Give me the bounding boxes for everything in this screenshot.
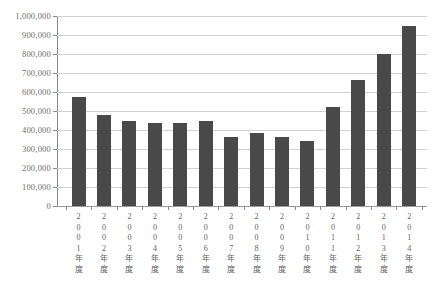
bar — [122, 121, 136, 206]
x-axis-label-char: 0 — [98, 233, 110, 244]
x-axis-tick-label: 2003年度 — [123, 212, 135, 275]
x-axis-label-char: 度 — [149, 265, 161, 276]
x-axis-label-char: 8 — [251, 244, 263, 255]
y-axis-tick-label: 900,000 — [22, 30, 51, 40]
x-axis-tick-group — [57, 206, 427, 210]
x-axis-tick-label: 2010年度 — [301, 212, 313, 275]
y-axis-tick-label: 200,000 — [22, 163, 51, 173]
y-axis-tick-label: 600,000 — [22, 87, 51, 97]
x-axis-label-char: 2 — [73, 212, 85, 223]
bar-chart: 1,000,000900,000800,000700,000600,000500… — [0, 0, 432, 281]
x-axis-label-char: 年 — [276, 254, 288, 265]
x-axis-label-char: 0 — [403, 223, 415, 234]
x-axis-label-char: 度 — [352, 265, 364, 276]
x-axis-label-char: 年 — [301, 254, 313, 265]
x-axis-label-char: 0 — [327, 223, 339, 234]
x-axis-label-char: 0 — [301, 223, 313, 234]
x-axis-label-char: 2 — [352, 244, 364, 255]
x-axis-label-char: 0 — [251, 233, 263, 244]
x-axis-label-char: 年 — [174, 254, 186, 265]
x-axis-label-char: 1 — [327, 244, 339, 255]
y-axis-tick-label: 0 — [47, 201, 51, 211]
x-axis-label-char: 2 — [98, 212, 110, 223]
x-axis-label-char: 0 — [301, 244, 313, 255]
x-axis-label-char: 年 — [149, 254, 161, 265]
x-axis-label-char: 1 — [352, 233, 364, 244]
x-axis-label-char: 0 — [98, 223, 110, 234]
x-axis-tick-mark — [91, 206, 92, 210]
x-axis-tick-mark — [371, 206, 372, 210]
bar — [351, 80, 365, 206]
bar — [250, 133, 264, 206]
y-axis-tick-label: 500,000 — [22, 106, 51, 116]
x-axis-label-char: 0 — [149, 223, 161, 234]
y-axis-tick-label: 300,000 — [22, 144, 51, 154]
bar — [148, 123, 162, 206]
x-axis-label-char: 0 — [123, 233, 135, 244]
x-axis-label-char: 年 — [378, 254, 390, 265]
x-axis-label-char: 年 — [98, 254, 110, 265]
x-axis-tick-mark — [346, 206, 347, 210]
x-axis-label-char: 9 — [276, 244, 288, 255]
x-axis-label-char: 度 — [98, 265, 110, 276]
x-axis-label-char: 0 — [200, 223, 212, 234]
x-axis-label-char: 0 — [378, 223, 390, 234]
x-axis-label-char: 度 — [123, 265, 135, 276]
x-axis-label-char: 1 — [403, 233, 415, 244]
x-axis-label-char: 度 — [225, 265, 237, 276]
x-axis-label-char: 度 — [251, 265, 263, 276]
x-axis-label-char: 0 — [251, 223, 263, 234]
x-axis-label-char: 1 — [73, 244, 85, 255]
x-axis-label-char: 2 — [301, 212, 313, 223]
x-axis-label-char: 0 — [352, 223, 364, 234]
x-axis-label-char: 1 — [301, 233, 313, 244]
x-axis-label-char: 度 — [174, 265, 186, 276]
y-axis-tick-label: 100,000 — [22, 182, 51, 192]
x-axis-tick-label: 2001年度 — [73, 212, 85, 275]
x-axis-tick-mark — [117, 206, 118, 210]
x-axis-label-char: 度 — [403, 265, 415, 276]
x-axis-label-char: 度 — [200, 265, 212, 276]
x-axis-label-char: 0 — [174, 233, 186, 244]
x-axis-tick-mark — [66, 206, 67, 210]
y-axis-tick-label: 700,000 — [22, 68, 51, 78]
x-axis-label-char: 0 — [200, 233, 212, 244]
x-axis-label-char: 2 — [352, 212, 364, 223]
x-axis-label-char: 1 — [378, 233, 390, 244]
x-axis-tick-label: 2012年度 — [352, 212, 364, 275]
x-axis-label-char: 2 — [327, 212, 339, 223]
x-axis-tick-label: 2004年度 — [149, 212, 161, 275]
y-axis-tick-label: 1,000,000 — [15, 11, 51, 21]
x-axis-tick-label: 2006年度 — [200, 212, 212, 275]
x-axis-label-char: 0 — [225, 223, 237, 234]
x-axis-label-char: 年 — [200, 254, 212, 265]
x-axis-label-char: 年 — [123, 254, 135, 265]
x-axis-label-char: 0 — [73, 223, 85, 234]
x-axis-tick-mark — [142, 206, 143, 210]
bar — [402, 26, 416, 206]
x-axis-tick-mark — [422, 206, 423, 210]
x-axis-tick-mark — [269, 206, 270, 210]
x-axis-tick-label: 2005年度 — [174, 212, 186, 275]
x-axis-label-char: 7 — [225, 244, 237, 255]
x-axis-label-char: 0 — [149, 233, 161, 244]
x-axis-label-char: 6 — [200, 244, 212, 255]
x-axis-label-char: 2 — [174, 212, 186, 223]
x-axis-label-char: 2 — [225, 212, 237, 223]
bar — [72, 97, 86, 206]
x-axis-tick-mark — [244, 206, 245, 210]
x-axis-tick-mark — [193, 206, 194, 210]
x-axis-label-char: 2 — [200, 212, 212, 223]
x-axis-label-char: 0 — [73, 233, 85, 244]
x-axis-label-char: 年 — [73, 254, 85, 265]
x-axis-label-char: 年 — [327, 254, 339, 265]
x-axis-tick-mark — [218, 206, 219, 210]
x-axis-tick-label: 2008年度 — [251, 212, 263, 275]
x-axis-label-char: 2 — [149, 212, 161, 223]
x-axis-label-char: 4 — [403, 244, 415, 255]
bar-group — [57, 16, 427, 206]
x-axis-tick-mark — [168, 206, 169, 210]
x-axis-label-char: 2 — [276, 212, 288, 223]
x-axis-tick-label: 2007年度 — [225, 212, 237, 275]
x-axis-tick-label: 2011年度 — [327, 212, 339, 275]
